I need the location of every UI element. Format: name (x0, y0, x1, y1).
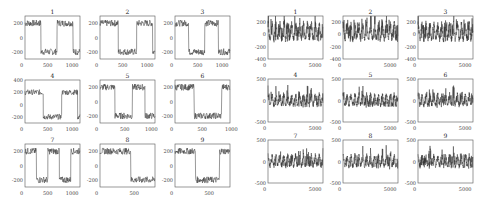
x-tick-label: 0 (413, 62, 416, 68)
subplot-right-8: 85000-50005000 (343, 140, 398, 183)
y-tick-label: 200 (331, 19, 341, 25)
signal-line (100, 20, 155, 55)
subplot-title: 6 (418, 71, 473, 78)
x-tick-label: 1000 (216, 62, 229, 68)
y-tick-label: 0 (263, 31, 266, 37)
x-tick-label: 5000 (309, 125, 322, 131)
subplot-title: 9 (418, 132, 473, 139)
subplot-title: 9 (175, 136, 230, 143)
x-tick-label: 0 (20, 62, 23, 68)
x-tick-label: 500 (43, 190, 53, 196)
subplot-title: 5 (343, 71, 398, 78)
subplot-title: 4 (25, 72, 80, 79)
y-tick-label: 500 (256, 137, 266, 143)
subplot-right-7: 75000-50005000 (268, 140, 323, 183)
plot-area (418, 140, 473, 183)
y-tick-label: -200 (405, 44, 416, 50)
x-tick-label: 5000 (384, 125, 397, 131)
y-tick-label: 500 (256, 76, 266, 82)
x-tick-label: 0 (20, 190, 23, 196)
y-tick-label: 0 (170, 163, 173, 169)
subplot-title: 2 (100, 8, 155, 15)
signal-line (100, 84, 155, 119)
subplot-right-6: 65000-50005000 (418, 79, 473, 122)
subplot-left-9: 92000-2000500 (175, 144, 230, 187)
plot-area (418, 79, 473, 122)
y-tick-label: 200 (256, 19, 266, 25)
subplot-left-3: 32000-20005001000 (175, 16, 230, 59)
y-tick-label: -200 (162, 177, 173, 183)
x-tick-label: 500 (198, 126, 208, 132)
subplot-title: 1 (25, 8, 80, 15)
subplot-left-2: 22000-20005001000 (100, 16, 155, 59)
y-tick-label: 0 (338, 98, 341, 104)
x-tick-label: 500 (129, 190, 139, 196)
signal-line (100, 148, 155, 183)
y-tick-label: 500 (331, 137, 341, 143)
x-tick-label: 1000 (141, 62, 154, 68)
x-tick-label: 500 (118, 62, 128, 68)
y-tick-label: 0 (338, 31, 341, 37)
signal-line (343, 86, 398, 108)
y-tick-label: 200 (88, 20, 98, 26)
y-tick-label: 200 (13, 89, 23, 95)
subplot-title: 2 (343, 8, 398, 15)
signal-line (268, 85, 323, 107)
subplot-left-5: 52000-20005001000 (100, 80, 155, 123)
y-tick-label: 0 (170, 99, 173, 105)
x-tick-label: 500 (43, 62, 53, 68)
plot-area (343, 140, 398, 183)
x-tick-label: 0 (170, 190, 173, 196)
x-tick-label: 0 (20, 126, 23, 132)
y-tick-label: 0 (413, 98, 416, 104)
subplot-right-2: 22000-200-40005000 (343, 16, 398, 59)
x-tick-label: 5000 (459, 186, 472, 192)
subplot-title: 7 (268, 132, 323, 139)
y-tick-label: 0 (338, 159, 341, 165)
y-tick-label: 0 (95, 99, 98, 105)
plot-area (25, 144, 80, 187)
subplot-title: 5 (100, 72, 155, 79)
signal-line (175, 148, 230, 183)
x-tick-label: 0 (338, 125, 341, 131)
x-tick-label: 5000 (309, 186, 322, 192)
y-tick-label: -200 (87, 177, 98, 183)
x-tick-label: 0 (338, 62, 341, 68)
signal-line (175, 20, 230, 55)
x-tick-label: 0 (170, 62, 173, 68)
x-tick-label: 0 (263, 125, 266, 131)
y-tick-label: -200 (162, 49, 173, 55)
x-tick-label: 0 (413, 125, 416, 131)
y-tick-label: 200 (13, 148, 23, 154)
y-tick-label: -200 (330, 44, 341, 50)
x-tick-label: 0 (95, 190, 98, 196)
x-tick-label: 1000 (66, 62, 79, 68)
subplot-title: 8 (100, 136, 155, 143)
x-tick-label: 500 (193, 62, 203, 68)
y-tick-label: 200 (163, 148, 173, 154)
y-tick-label: 0 (263, 159, 266, 165)
x-tick-label: 5000 (309, 62, 322, 68)
subplot-left-6: 62000-20005001000 (175, 80, 230, 123)
plot-area (268, 140, 323, 183)
subplot-left-1: 12000-20005001000 (25, 16, 80, 59)
signal-line (418, 146, 473, 169)
subplot-right-4: 45000-50005000 (268, 79, 323, 122)
subplot-right-3: 32000-200-40005000 (418, 16, 473, 59)
y-tick-label: 0 (95, 163, 98, 169)
y-tick-label: 500 (406, 76, 416, 82)
subplot-title: 4 (268, 71, 323, 78)
x-tick-label: 0 (263, 186, 266, 192)
subplot-title: 6 (175, 72, 230, 79)
signal-line (25, 90, 80, 120)
y-tick-label: 0 (95, 35, 98, 41)
signal-line (343, 145, 398, 169)
x-tick-label: 500 (120, 126, 130, 132)
subplot-left-4: 44002000-20005001000 (25, 80, 80, 123)
plot-area (343, 79, 398, 122)
signal-line (343, 16, 398, 42)
y-tick-label: 400 (13, 77, 23, 83)
plot-area (25, 16, 80, 59)
subplot-right-9: 95000-50005000 (418, 140, 473, 183)
y-tick-label: 0 (263, 98, 266, 104)
